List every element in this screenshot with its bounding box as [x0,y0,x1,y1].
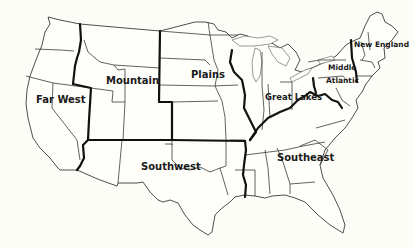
region-label-mountain: Mountain [106,76,159,86]
region-label-middle-atlantic-line1: Middle [328,64,356,72]
region-label-new-england: New England [354,41,409,49]
region-label-far-west: Far West [36,95,86,105]
region-label-plains: Plains [191,70,225,80]
region-label-southwest: Southwest [141,162,201,172]
region-label-great-lakes: Great Lakes [265,93,322,102]
region-label-middle-atlantic-line2: Atlantic [326,77,359,85]
map-canvas [0,0,414,248]
region-label-southeast: Southeast [277,153,334,163]
border-southwest-north [88,140,245,141]
us-regions-map: Far West Mountain Plains Great Lakes Mid… [0,0,414,248]
